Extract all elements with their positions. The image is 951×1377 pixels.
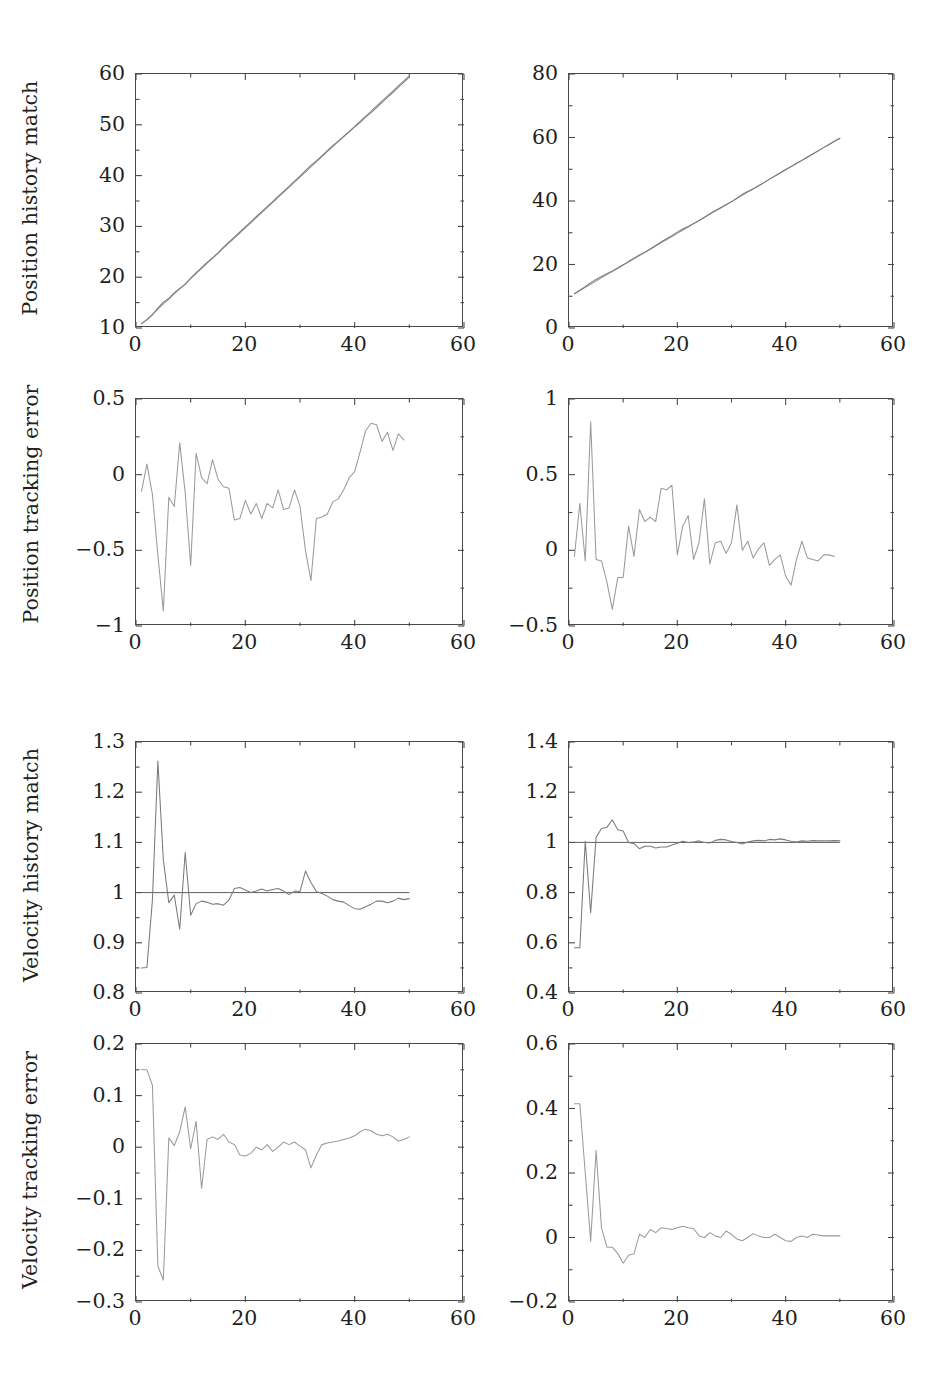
y-tick-label-r3c2-2: 0.8 xyxy=(490,880,558,904)
y-tick-label-r1c2-3: 60 xyxy=(490,125,558,149)
x-tick-label-r1c1-1: 20 xyxy=(231,332,257,356)
x-tick-label-r4c2-1: 20 xyxy=(663,1306,689,1330)
plot-area-r3c2 xyxy=(568,741,893,992)
x-tick-label-r2c1-3: 60 xyxy=(450,630,476,654)
y-tick-label-r1c2-0: 0 xyxy=(490,315,558,339)
y-axis-label-r4c1: Velocity tracking error xyxy=(18,1041,42,1299)
y-axis-label-r3c1: Velocity history match xyxy=(18,739,42,990)
x-tick-label-r2c1-1: 20 xyxy=(231,630,257,654)
y-tick-label-r3c2-5: 1.4 xyxy=(490,729,558,753)
plot-svg-r2c2 xyxy=(569,399,894,626)
plot-svg-r1c1 xyxy=(136,74,464,328)
plot-area-r1c1 xyxy=(135,73,463,327)
y-tick-label-r2c2-1: 0 xyxy=(490,537,558,561)
x-tick-label-r3c1-3: 60 xyxy=(450,997,476,1021)
x-tick-label-r3c1-0: 0 xyxy=(128,997,141,1021)
y-tick-label-r3c1-5: 1.3 xyxy=(57,729,125,753)
x-tick-label-r1c2-2: 40 xyxy=(772,332,798,356)
y-tick-label-r1c1-2: 30 xyxy=(57,213,125,237)
y-tick-label-r3c1-1: 0.9 xyxy=(57,930,125,954)
plot-area-r4c2 xyxy=(568,1043,893,1301)
y-tick-label-r2c1-1: −0.5 xyxy=(57,537,125,561)
tick-marks-r2c2 xyxy=(569,399,894,626)
y-tick-label-r1c1-0: 10 xyxy=(57,315,125,339)
tick-marks-r4c2 xyxy=(569,1044,894,1302)
y-tick-label-r3c2-1: 0.6 xyxy=(490,930,558,954)
y-tick-label-r4c1-4: 0.1 xyxy=(57,1083,125,1107)
x-tick-label-r4c2-2: 40 xyxy=(772,1306,798,1330)
y-tick-label-r1c2-1: 20 xyxy=(490,252,558,276)
tick-marks-r3c2 xyxy=(569,742,894,993)
y-tick-label-r3c2-0: 0.4 xyxy=(490,980,558,1004)
y-tick-label-r3c1-3: 1.1 xyxy=(57,829,125,853)
y-tick-label-r2c1-2: 0 xyxy=(57,462,125,486)
plot-svg-r4c1 xyxy=(136,1044,464,1302)
y-tick-label-r4c2-2: 0.2 xyxy=(490,1160,558,1184)
plot-area-r4c1 xyxy=(135,1043,463,1301)
y-tick-label-r3c2-4: 1.2 xyxy=(490,779,558,803)
plot-area-r1c2 xyxy=(568,73,893,327)
plot-svg-r2c1 xyxy=(136,399,464,626)
x-tick-label-r1c2-3: 60 xyxy=(880,332,906,356)
x-tick-label-r4c1-3: 60 xyxy=(450,1306,476,1330)
y-tick-label-r2c1-0: −1 xyxy=(57,613,125,637)
y-tick-label-r2c2-2: 0.5 xyxy=(490,462,558,486)
y-tick-label-r4c2-1: 0 xyxy=(490,1225,558,1249)
series-r2c2-0 xyxy=(574,422,834,610)
y-tick-label-r1c2-2: 40 xyxy=(490,188,558,212)
y-tick-label-r4c1-2: −0.1 xyxy=(57,1186,125,1210)
y-tick-label-r2c1-3: 0.5 xyxy=(57,386,125,410)
y-tick-label-r1c1-4: 50 xyxy=(57,112,125,136)
plot-svg-r3c2 xyxy=(569,742,894,993)
y-tick-label-r1c1-1: 20 xyxy=(57,264,125,288)
y-tick-label-r2c2-3: 1 xyxy=(490,386,558,410)
x-tick-label-r3c2-0: 0 xyxy=(561,997,574,1021)
y-axis-label-r2c1: Position tracking error xyxy=(18,396,42,623)
tick-marks-r3c1 xyxy=(136,742,464,993)
x-tick-label-r2c1-2: 40 xyxy=(341,630,367,654)
x-tick-label-r1c1-2: 40 xyxy=(341,332,367,356)
x-tick-label-r4c2-3: 60 xyxy=(880,1306,906,1330)
x-tick-label-r3c2-1: 20 xyxy=(663,997,689,1021)
y-tick-label-r3c2-3: 1 xyxy=(490,829,558,853)
x-tick-label-r2c1-0: 0 xyxy=(128,630,141,654)
y-tick-label-r4c1-0: −0.3 xyxy=(57,1289,125,1313)
series-r2c1-0 xyxy=(141,423,403,611)
plot-svg-r4c2 xyxy=(569,1044,894,1302)
y-tick-label-r1c1-3: 40 xyxy=(57,163,125,187)
y-tick-label-r4c1-1: −0.2 xyxy=(57,1237,125,1261)
x-tick-label-r4c2-0: 0 xyxy=(561,1306,574,1330)
y-tick-label-r3c1-4: 1.2 xyxy=(57,779,125,803)
plot-area-r2c1 xyxy=(135,398,463,625)
series-r4c1-0 xyxy=(141,1070,409,1281)
plot-area-r3c1 xyxy=(135,741,463,992)
y-tick-label-r4c2-0: −0.2 xyxy=(490,1289,558,1313)
x-tick-label-r4c1-0: 0 xyxy=(128,1306,141,1330)
figure-multipanel-tracking-results: 1020304050600204060Position history matc… xyxy=(0,0,951,1377)
y-tick-label-r4c2-3: 0.4 xyxy=(490,1096,558,1120)
x-tick-label-r1c1-0: 0 xyxy=(128,332,141,356)
x-tick-label-r2c2-1: 20 xyxy=(663,630,689,654)
tick-marks-r1c1 xyxy=(136,74,464,328)
y-tick-label-r4c1-5: 0.2 xyxy=(57,1031,125,1055)
series-r3c1-1 xyxy=(141,761,409,968)
y-tick-label-r3c1-2: 1 xyxy=(57,880,125,904)
x-tick-label-r2c2-2: 40 xyxy=(772,630,798,654)
x-tick-label-r3c1-1: 20 xyxy=(231,997,257,1021)
x-tick-label-r1c2-1: 20 xyxy=(663,332,689,356)
x-tick-label-r4c1-2: 40 xyxy=(341,1306,367,1330)
x-tick-label-r3c2-3: 60 xyxy=(880,997,906,1021)
y-tick-label-r1c2-4: 80 xyxy=(490,61,558,85)
x-tick-label-r3c1-2: 40 xyxy=(341,997,367,1021)
tick-marks-r1c2 xyxy=(569,74,894,328)
x-tick-label-r2c2-3: 60 xyxy=(880,630,906,654)
x-tick-label-r2c2-0: 0 xyxy=(561,630,574,654)
x-tick-label-r3c2-2: 40 xyxy=(772,997,798,1021)
y-tick-label-r2c2-0: −0.5 xyxy=(490,613,558,637)
y-tick-label-r3c1-0: 0.8 xyxy=(57,980,125,1004)
y-tick-label-r4c2-4: 0.6 xyxy=(490,1031,558,1055)
y-tick-label-r1c1-5: 60 xyxy=(57,61,125,85)
series-r3c2-1 xyxy=(574,820,839,948)
x-tick-label-r4c1-1: 20 xyxy=(231,1306,257,1330)
x-tick-label-r1c2-0: 0 xyxy=(561,332,574,356)
